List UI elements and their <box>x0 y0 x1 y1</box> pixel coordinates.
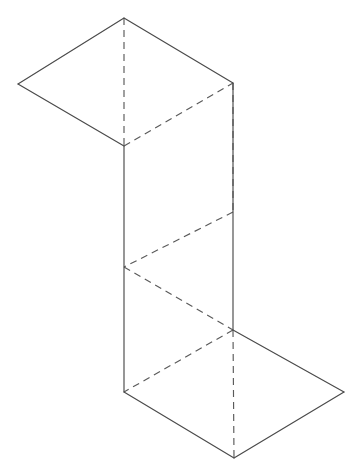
isometric-prism-net-figure <box>0 0 364 474</box>
diagram-canvas <box>0 0 364 474</box>
face-group <box>18 18 344 458</box>
